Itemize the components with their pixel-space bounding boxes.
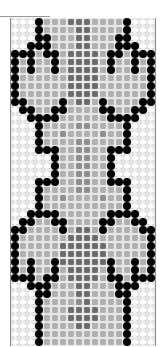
bead-cell	[123, 290, 131, 298]
bead-cell	[123, 42, 131, 50]
bead-cell	[59, 210, 67, 218]
bead-cell	[67, 306, 75, 314]
bead-cell	[91, 90, 99, 98]
bead-cell	[27, 210, 35, 218]
bead-cell	[27, 50, 35, 58]
bead-cell	[107, 290, 115, 298]
bead-cell	[67, 178, 75, 186]
bead-cell	[139, 34, 147, 42]
bead-cell	[91, 290, 99, 298]
bead-cell	[19, 306, 27, 314]
bead-cell	[19, 258, 27, 266]
bead-cell	[139, 178, 147, 186]
bead-cell	[115, 234, 123, 242]
bead-cell	[75, 106, 83, 114]
bead-cell	[107, 218, 115, 226]
bead-cell	[11, 146, 19, 154]
bead-cell	[27, 18, 35, 26]
bead-cell	[35, 234, 43, 242]
bead-cell	[123, 82, 131, 90]
bead-cell	[147, 234, 155, 242]
bead-cell	[75, 194, 83, 202]
bead-cell	[67, 146, 75, 154]
bead-cell	[107, 34, 115, 42]
bead-cell	[115, 338, 123, 346]
bead-cell	[139, 338, 147, 346]
bead-cell	[99, 146, 107, 154]
bead-cell	[59, 266, 67, 274]
bead-cell	[131, 26, 139, 34]
bead-cell	[83, 114, 91, 122]
bead-cell	[107, 298, 115, 306]
bead-cell	[51, 90, 59, 98]
bead-cell	[131, 234, 139, 242]
bead-cell	[59, 34, 67, 42]
bead-cell	[19, 42, 27, 50]
bead-cell	[11, 50, 19, 58]
bead-cell	[147, 42, 155, 50]
bead-cell	[75, 186, 83, 194]
bead-cell	[59, 330, 67, 338]
bead-cell	[147, 306, 155, 314]
bead-cell	[147, 74, 155, 82]
bead-cell	[19, 186, 27, 194]
bead-cell	[75, 122, 83, 130]
bead-cell	[147, 282, 155, 290]
bead-cell	[99, 34, 107, 42]
bead-cell	[115, 98, 123, 106]
bead-cell	[91, 186, 99, 194]
bead-cell	[83, 290, 91, 298]
bead-cell	[11, 290, 19, 298]
bead-cell	[91, 178, 99, 186]
bead-cell	[123, 250, 131, 258]
bead-cell	[43, 106, 51, 114]
bead-cell	[91, 210, 99, 218]
bead-cell	[139, 98, 147, 106]
bead-cell	[91, 298, 99, 306]
bead-cell	[35, 218, 43, 226]
bead-cell	[35, 154, 43, 162]
bead-cell	[139, 74, 147, 82]
bead-cell	[59, 162, 67, 170]
bead-cell	[147, 90, 155, 98]
bead-cell	[51, 154, 59, 162]
bead-cell	[139, 234, 147, 242]
bead-cell	[27, 186, 35, 194]
bead-cell	[91, 306, 99, 314]
bead-cell	[11, 330, 19, 338]
bead-cell	[131, 114, 139, 122]
bead-cell	[51, 42, 59, 50]
bead-cell	[51, 18, 59, 26]
bead-cell	[19, 98, 27, 106]
bead-cell	[35, 146, 43, 154]
bead-cell	[19, 18, 27, 26]
bead-cell	[107, 210, 115, 218]
bead-cell	[75, 258, 83, 266]
bead-cell	[83, 274, 91, 282]
bead-cell	[99, 218, 107, 226]
bead-cell	[19, 122, 27, 130]
bead-cell	[91, 338, 99, 346]
bead-cell	[123, 90, 131, 98]
bead-cell	[11, 234, 19, 242]
bead-cell	[107, 266, 115, 274]
bead-cell	[99, 210, 107, 218]
bead-cell	[139, 26, 147, 34]
bead-cell	[35, 138, 43, 146]
bead-cell	[27, 314, 35, 322]
bead-cell	[43, 218, 51, 226]
bead-cell	[91, 162, 99, 170]
bead-cell	[67, 186, 75, 194]
bead-cell	[27, 298, 35, 306]
bead-cell	[27, 162, 35, 170]
bead-cell	[59, 202, 67, 210]
bead-cell	[83, 18, 91, 26]
bead-cell	[131, 106, 139, 114]
bead-cell	[51, 74, 59, 82]
bead-cell	[27, 306, 35, 314]
bead-cell	[67, 82, 75, 90]
bead-cell	[11, 250, 19, 258]
bead-cell	[11, 218, 19, 226]
bead-cell	[11, 98, 19, 106]
bead-cell	[59, 90, 67, 98]
